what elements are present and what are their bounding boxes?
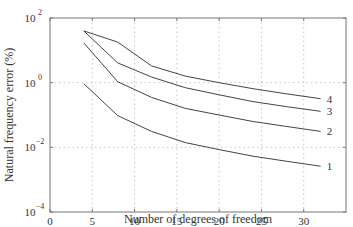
y-tick-exponent: −4 xyxy=(36,202,45,211)
data-series xyxy=(84,31,321,166)
series-line-4 xyxy=(84,31,321,99)
series-label-1: 1 xyxy=(327,160,333,172)
y-tick-exponent: 0 xyxy=(38,73,42,82)
series-label-2: 2 xyxy=(327,125,333,137)
x-tick-label: 30 xyxy=(298,215,310,227)
series-line-2 xyxy=(84,43,321,131)
y-axis-label: Natural frequency error (%) xyxy=(2,48,16,182)
series-label-3: 3 xyxy=(327,105,333,117)
y-tick-exponent: 2 xyxy=(38,8,42,17)
y-tick-label: 10 xyxy=(25,12,37,24)
line-chart: 05101520253010−410−2100102 1234 Number o… xyxy=(0,0,353,227)
y-tick-exponent: −2 xyxy=(36,137,45,146)
series-label-4: 4 xyxy=(327,93,333,105)
plot-frame xyxy=(50,18,346,212)
x-tick-label: 5 xyxy=(90,215,96,227)
x-axis-label: Number of degrees of freedom xyxy=(124,212,273,226)
y-tick-label: 10 xyxy=(25,141,37,153)
y-tick-label: 10 xyxy=(25,77,37,89)
x-tick-label: 0 xyxy=(47,215,53,227)
y-tick-label: 10 xyxy=(25,206,37,218)
series-line-1 xyxy=(84,84,321,167)
curve-labels: 1234 xyxy=(327,93,333,173)
grid-lines xyxy=(50,18,346,212)
axis-ticks: 05101520253010−410−2100102 xyxy=(25,8,347,227)
